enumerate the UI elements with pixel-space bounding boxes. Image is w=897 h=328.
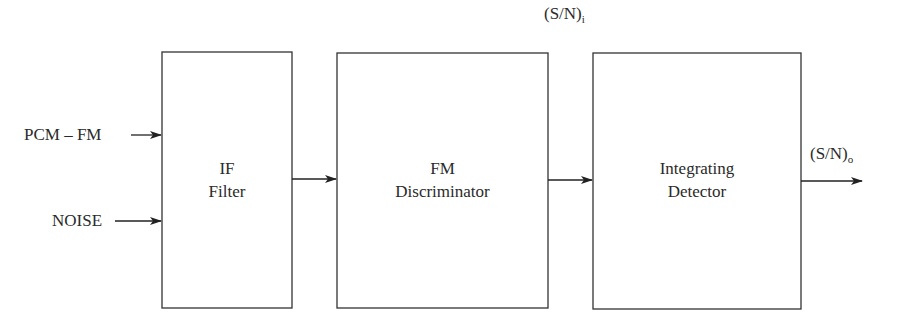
- fm-discriminator-line2: Discriminator: [337, 180, 548, 203]
- snr-input-main: (S/N): [544, 4, 582, 23]
- snr-output-sub: o: [848, 153, 854, 165]
- snr-output-label: (S/N)o: [810, 145, 853, 162]
- if-filter-line2: Filter: [162, 180, 292, 203]
- pcm-fm-label: PCM – FM: [24, 126, 101, 143]
- fm-discriminator-line1: FM: [337, 157, 548, 180]
- fm-discriminator-text: FM Discriminator: [337, 157, 548, 203]
- noise-label: NOISE: [52, 212, 102, 229]
- if-filter-line1: IF: [162, 157, 292, 180]
- integrating-detector-line1: Integrating: [593, 157, 801, 180]
- if-filter-text: IF Filter: [162, 157, 292, 203]
- snr-input-sub: i: [582, 13, 585, 25]
- snr-input-label: (S/N)i: [544, 5, 585, 22]
- integrating-detector-line2: Detector: [593, 180, 801, 203]
- snr-output-main: (S/N): [810, 144, 848, 163]
- integrating-detector-text: Integrating Detector: [593, 157, 801, 203]
